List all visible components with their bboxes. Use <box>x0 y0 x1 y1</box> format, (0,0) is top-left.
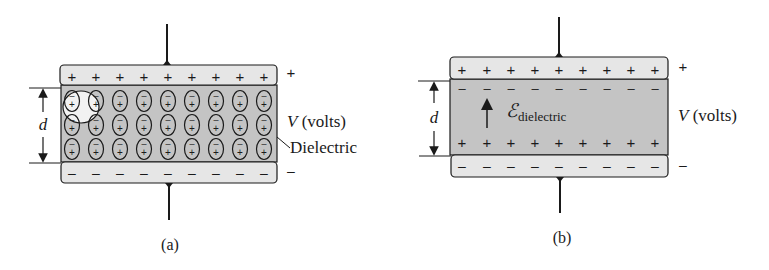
dielectric-label: Dielectric <box>290 138 357 157</box>
positive-terminal-label: + <box>679 58 688 75</box>
dipole-positive-end: + <box>141 147 147 158</box>
charge-minus: – <box>555 81 563 96</box>
voltage-unit: (volts) <box>297 112 346 131</box>
panel-b: + + + + + + + + + – – – – – – – – – + + … <box>418 17 737 247</box>
dipole-positive-end: + <box>261 147 267 158</box>
charge-plus: + <box>483 61 492 78</box>
charge-plus: + <box>260 68 269 85</box>
charge-minus: – <box>188 165 196 181</box>
dipole-positive-end: + <box>213 123 219 134</box>
dipole-positive-end: + <box>261 99 267 110</box>
distance-label: d <box>430 108 439 127</box>
dipole-positive-end: + <box>93 99 99 110</box>
charge-minus: – <box>579 158 587 174</box>
negative-terminal-label: – <box>287 163 295 179</box>
bottom-lead-joint <box>165 183 173 188</box>
charge-plus: + <box>68 68 77 85</box>
bottom-plate-charges: – – – – – – – – – <box>68 165 268 181</box>
capacitor-dielectric-diagram: + + + + + + + + + – – – – – – – – – –+–+… <box>0 0 769 270</box>
bottom-plate-charges: – – – – – – – – – <box>458 158 659 174</box>
voltage-label: V (volts) <box>287 112 346 131</box>
field-subscript: dielectric <box>518 109 567 124</box>
charge-minus: – <box>555 158 563 174</box>
dipole-positive-end: + <box>189 147 195 158</box>
charge-minus: – <box>579 81 587 96</box>
dipole-positive-end: + <box>165 99 171 110</box>
charge-minus: – <box>603 158 611 174</box>
negative-terminal-label: – <box>679 157 687 173</box>
charge-plus: + <box>531 134 540 151</box>
bottom-lead-joint <box>556 177 564 182</box>
dipole-positive-end: + <box>141 99 147 110</box>
charge-minus: – <box>212 165 220 181</box>
charge-minus: – <box>116 165 124 181</box>
dipole-positive-end: + <box>93 123 99 134</box>
charge-minus: – <box>483 158 491 174</box>
charge-plus: + <box>483 134 492 151</box>
charge-minus: – <box>164 165 172 181</box>
dipole-positive-end: + <box>141 123 147 134</box>
voltage-unit: (volts) <box>688 106 737 125</box>
charge-plus: + <box>627 61 636 78</box>
charge-minus: – <box>260 165 268 181</box>
charge-plus: + <box>531 61 540 78</box>
charge-plus: + <box>507 61 516 78</box>
dipole-positive-end: + <box>117 99 123 110</box>
charge-plus: + <box>188 68 197 85</box>
panel-a: + + + + + + + + + – – – – – – – – – –+–+… <box>29 24 357 254</box>
charge-plus: + <box>603 61 612 78</box>
charge-plus: + <box>507 134 516 151</box>
charge-minus: – <box>236 165 244 181</box>
dipole-positive-end: + <box>69 123 75 134</box>
charge-plus: + <box>627 134 636 151</box>
charge-minus: – <box>651 158 659 174</box>
voltage-label: V (volts) <box>678 106 737 125</box>
caption-b: (b) <box>553 229 572 247</box>
charge-plus: + <box>603 134 612 151</box>
dipole-positive-end: + <box>69 99 75 110</box>
charge-minus: – <box>531 81 539 96</box>
dipole-positive-end: + <box>165 123 171 134</box>
charge-plus: + <box>164 68 173 85</box>
dielectric-leader-line <box>277 137 290 148</box>
charge-plus: + <box>140 68 149 85</box>
induced-positive-charges: + + + + + + + + + <box>458 134 660 151</box>
charge-minus: – <box>507 81 515 96</box>
charge-plus: + <box>555 61 564 78</box>
top-lead-joint <box>163 60 171 65</box>
charge-plus: + <box>212 68 221 85</box>
charge-plus: + <box>651 61 660 78</box>
dipole-positive-end: + <box>189 99 195 110</box>
top-lead-joint <box>555 52 563 57</box>
charge-plus: + <box>579 134 588 151</box>
dipole-positive-end: + <box>213 99 219 110</box>
charge-minus: – <box>92 165 100 181</box>
charge-minus: – <box>603 81 611 96</box>
dipole-positive-end: + <box>237 123 243 134</box>
charge-minus: – <box>483 81 491 96</box>
charge-minus: – <box>627 158 635 174</box>
dipole-positive-end: + <box>213 147 219 158</box>
dipole-positive-end: + <box>237 147 243 158</box>
charge-plus: + <box>92 68 101 85</box>
caption-a: (a) <box>161 236 179 254</box>
positive-terminal-label: + <box>287 64 296 81</box>
charge-minus: – <box>458 158 466 174</box>
charge-minus: – <box>531 158 539 174</box>
dipole-positive-end: + <box>237 99 243 110</box>
dipole-grid: –+–+–+–+–+–+–+–+–+–+–+–+–+–+–+–+–+–+–+–+… <box>65 91 272 160</box>
charge-plus: + <box>458 134 467 151</box>
dipole-positive-end: + <box>165 147 171 158</box>
dipole-positive-end: + <box>69 147 75 158</box>
induced-negative-charges: – – – – – – – – – <box>458 81 659 96</box>
top-plate-charges: + + + + + + + + + <box>68 68 269 85</box>
dipole-positive-end: + <box>93 147 99 158</box>
charge-minus: – <box>627 81 635 96</box>
charge-minus: – <box>458 81 466 96</box>
charge-minus: – <box>140 165 148 181</box>
distance-label: d <box>39 115 48 134</box>
charge-plus: + <box>116 68 125 85</box>
dipole-positive-end: + <box>261 123 267 134</box>
charge-minus: – <box>507 158 515 174</box>
top-plate-charges: + + + + + + + + + <box>458 61 660 78</box>
